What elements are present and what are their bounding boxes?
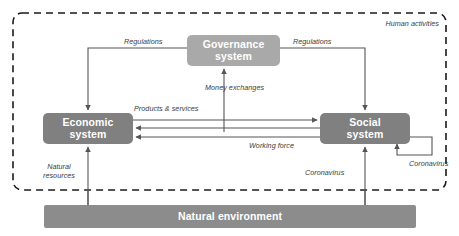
diagram-canvas: Governancesystem Economicsystem Socialsy… — [0, 0, 459, 236]
node-governance-system-label: Governancesystem — [201, 39, 267, 63]
node-economic-system-label: Economicsystem — [61, 117, 116, 141]
edge-label-working-force: Working force — [249, 142, 294, 151]
node-social-system-label: Socialsystem — [345, 117, 386, 141]
edge-regulations-to-social — [280, 48, 365, 110]
node-natural-environment-label: Natural environment — [176, 211, 284, 223]
edge-label-regulations-social: Regulations — [293, 38, 332, 47]
node-natural-environment[interactable]: Natural environment — [44, 205, 416, 228]
edge-label-coronavirus-self-loop: Coronavirus — [409, 160, 448, 169]
edge-label-products-services: Products & services — [134, 105, 198, 114]
edge-regulations-to-economic — [88, 48, 187, 110]
node-governance-system[interactable]: Governancesystem — [187, 35, 280, 66]
edge-label-regulations-economic: Regulations — [124, 38, 163, 47]
node-economic-system[interactable]: Economicsystem — [43, 113, 133, 144]
edge-label-coronavirus-from-nature: Coronavirus — [305, 169, 344, 178]
edge-label-money-exchanges: Money exchanges — [205, 84, 264, 93]
edge-label-natural-resources: Natural resources — [36, 163, 82, 181]
boundary-label-human-activities: Human activities — [385, 20, 439, 29]
node-social-system[interactable]: Socialsystem — [320, 113, 410, 144]
